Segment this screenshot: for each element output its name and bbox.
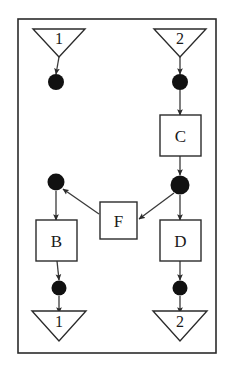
p-mid-left (48, 174, 65, 191)
p-top-right (172, 74, 188, 90)
box-b-label: B (51, 232, 62, 251)
p-top-left (48, 74, 64, 90)
p-bot-left (52, 281, 67, 296)
box-b: B (36, 220, 77, 261)
box-c-label: C (175, 127, 186, 146)
box-d-label: D (174, 232, 186, 251)
box-f-label: F (114, 212, 123, 231)
connector-in-1-label: 1 (55, 30, 63, 47)
connector-out-2-label: 2 (176, 313, 184, 330)
diagram-canvas: CBDF 1212 (0, 0, 229, 369)
box-d: D (160, 220, 201, 261)
box-f: F (100, 202, 137, 239)
p-bot-right (173, 281, 188, 296)
connector-in-2-label: 2 (176, 30, 184, 47)
connector-out-1-label: 1 (55, 313, 63, 330)
box-c: C (160, 115, 201, 156)
p-junction (171, 176, 190, 195)
petri-net-diagram: CBDF 1212 (0, 0, 229, 369)
